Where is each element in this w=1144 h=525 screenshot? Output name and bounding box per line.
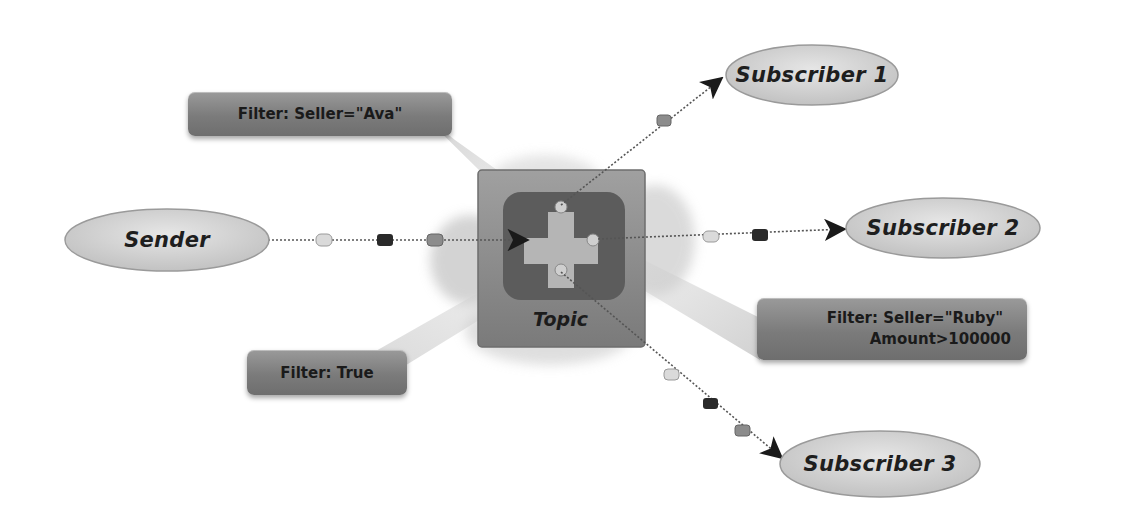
subscriber1-label: Subscriber 1	[726, 45, 898, 105]
topic-label: Topic	[533, 308, 588, 330]
pubsub-diagram: Sender Subscriber 1 Subscriber 2 Subscri…	[0, 0, 1144, 525]
message-token-dark	[703, 398, 718, 409]
message-token-light	[703, 231, 719, 242]
subscriber2-label: Subscriber 2	[846, 198, 1040, 258]
filter-ruby-line2: Amount>100000	[870, 329, 1011, 350]
message-token-light	[664, 369, 679, 380]
message-token-medium	[657, 115, 671, 126]
filter-seller-ruby: Filter: Seller="Ruby" Amount>100000	[757, 298, 1027, 360]
message-token-dark	[377, 234, 393, 246]
subscriber3-label: Subscriber 3	[780, 431, 980, 497]
message-token-medium	[427, 234, 443, 246]
filter-true: Filter: True	[247, 350, 407, 395]
sender-label: Sender	[65, 209, 269, 271]
message-token-medium	[735, 425, 750, 436]
filter-seller-ava-label: Filter: Seller="Ava"	[238, 105, 403, 123]
filter-true-label: Filter: True	[280, 364, 373, 382]
filter-ruby-line1: Filter: Seller="Ruby"	[827, 308, 1003, 329]
message-token-light	[316, 234, 332, 246]
message-token-dark	[752, 229, 768, 241]
filter-seller-ava: Filter: Seller="Ava"	[188, 92, 452, 136]
